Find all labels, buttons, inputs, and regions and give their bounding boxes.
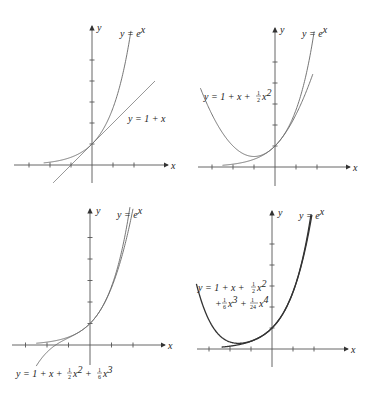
curves bbox=[44, 31, 155, 183]
label-ex: y = ex bbox=[298, 206, 325, 221]
label-quartic: y = 1 + x + 1 2 x2 + 1 6 x3 + 1 24 x4 bbox=[197, 278, 268, 310]
axis-ticks bbox=[29, 60, 134, 168]
panel-ex-vs-quadratic: x y y = ex y = 1 + x + 1 2 x2 bbox=[198, 24, 358, 186]
curve-taylor-polynomial bbox=[53, 81, 155, 183]
svg-text:x2 +: x2 + bbox=[72, 364, 94, 379]
svg-text:6: 6 bbox=[98, 374, 101, 380]
curve-exponential bbox=[44, 31, 131, 163]
svg-text:x3 +: x3 + bbox=[227, 294, 249, 309]
curve-taylor-polynomial bbox=[36, 209, 133, 366]
svg-text:y = 1 + x +: y = 1 + x + bbox=[15, 368, 63, 379]
curve-taylor-polynomial bbox=[196, 215, 312, 344]
label-cubic: y = 1 + x + 1 2 x2 + 1 6 x3 bbox=[15, 364, 112, 380]
panel-ex-vs-quartic: x y y = ex y = 1 + x + 1 2 x2 + 1 6 x3 +… bbox=[196, 206, 356, 367]
y-axis-label: y bbox=[279, 24, 285, 35]
svg-text:1: 1 bbox=[252, 281, 255, 287]
x-axis-label: x bbox=[167, 340, 173, 351]
panel-ex-vs-cubic: x y y = ex y = 1 + x + 1 2 x2 + 1 6 x3 bbox=[12, 205, 173, 380]
x-axis-label: x bbox=[170, 160, 176, 171]
label-quadratic: y = 1 + x + 1 2 x2 bbox=[203, 87, 271, 103]
panel-ex-vs-linear: x y y = ex y = 1 + x bbox=[14, 22, 176, 183]
y-axis-label: y bbox=[277, 207, 283, 218]
svg-text:6: 6 bbox=[223, 304, 226, 310]
x-axis-label: x bbox=[352, 162, 358, 173]
svg-text:1: 1 bbox=[257, 90, 260, 96]
svg-text:x2: x2 bbox=[256, 278, 266, 293]
svg-text:1: 1 bbox=[98, 367, 101, 373]
svg-text:2: 2 bbox=[68, 374, 71, 380]
curves bbox=[36, 207, 133, 366]
svg-text:y = 1 + x +: y = 1 + x + bbox=[203, 91, 251, 102]
svg-text:1: 1 bbox=[251, 297, 254, 303]
taylor-approximation-figure: x y y = ex y = 1 + x x y y = ex y = 1 + … bbox=[0, 0, 377, 398]
svg-text:24: 24 bbox=[250, 304, 256, 310]
y-axis-label: y bbox=[96, 22, 102, 33]
label-linear: y = 1 + x bbox=[127, 113, 166, 124]
label-ex: y = ex bbox=[116, 205, 143, 220]
svg-text:x3: x3 bbox=[102, 364, 112, 379]
label-ex: y = ex bbox=[301, 24, 328, 39]
label-ex: y = ex bbox=[119, 24, 146, 39]
svg-text:x2: x2 bbox=[261, 87, 271, 102]
svg-text:2: 2 bbox=[252, 288, 255, 294]
y-axis-label: y bbox=[95, 205, 101, 216]
svg-text:1: 1 bbox=[68, 367, 71, 373]
axis-ticks bbox=[26, 238, 134, 348]
svg-text:x4: x4 bbox=[258, 294, 268, 309]
svg-text:1: 1 bbox=[223, 297, 226, 303]
svg-text:+: + bbox=[215, 298, 222, 309]
svg-text:2: 2 bbox=[257, 97, 260, 103]
curve-taylor-polynomial bbox=[200, 74, 312, 156]
svg-text:y = 1 + x +: y = 1 + x + bbox=[197, 282, 245, 293]
x-axis-label: x bbox=[350, 344, 356, 355]
